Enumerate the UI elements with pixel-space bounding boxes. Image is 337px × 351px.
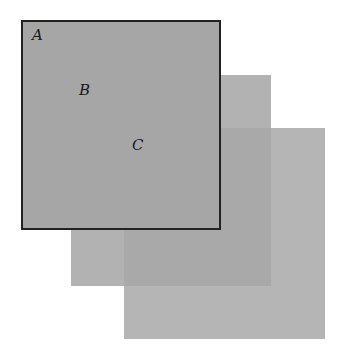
label-b: B	[79, 83, 90, 98]
diagram: A B C	[0, 0, 337, 351]
label-a: A	[32, 28, 43, 43]
label-c: C	[132, 138, 143, 153]
square-a	[21, 20, 221, 230]
